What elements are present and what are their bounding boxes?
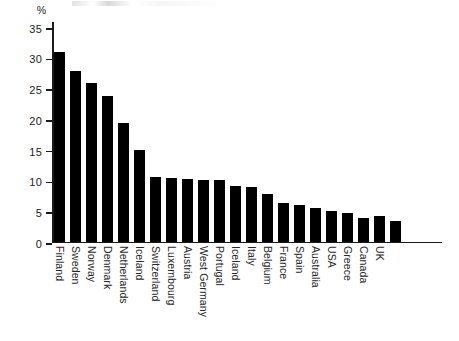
bar (198, 180, 209, 241)
bar-slot (214, 27, 225, 242)
x-axis-label: Switzerland (150, 246, 162, 301)
x-axis-label-slot: USA (326, 246, 337, 336)
x-axis-label: West Germany (198, 246, 210, 317)
bar-slot (118, 27, 129, 242)
bar-slot (182, 27, 193, 242)
plot-area: % 05101520253035 (52, 28, 442, 243)
x-axis-label: Canada (358, 246, 370, 283)
bar-slot (102, 27, 113, 242)
x-axis-label: France (278, 246, 290, 279)
bar (102, 96, 113, 242)
x-axis-label-slot: Greece (342, 246, 353, 336)
x-axis-label-slot: Iceland (134, 246, 145, 336)
bar (150, 177, 161, 242)
bar (70, 71, 81, 241)
y-axis-tick-label: 20 (29, 115, 42, 127)
bar (86, 83, 97, 241)
y-axis-tick: 10 (46, 182, 52, 184)
x-axis-label: Finland (54, 246, 66, 281)
bar-slot (294, 27, 305, 242)
bar (310, 208, 321, 241)
y-axis-tick-label: 10 (29, 176, 42, 188)
y-axis-tick: 35 (46, 28, 52, 30)
bar-slot (86, 27, 97, 242)
scan-artifact (72, 1, 222, 6)
x-axis-label-slot: Italy (246, 246, 257, 336)
bar-series (54, 27, 401, 242)
y-axis-tick: 5 (46, 212, 52, 214)
x-axis-label-slot: West Germany (198, 246, 209, 336)
bar-slot (278, 27, 289, 242)
x-axis-label-slot: Finland (54, 246, 65, 336)
x-axis-label: Portugal (214, 246, 226, 286)
bar-slot (54, 27, 65, 242)
bar-slot (342, 27, 353, 242)
bar-slot (198, 27, 209, 242)
bar-slot (358, 27, 369, 242)
x-axis-label: Netherlands (118, 246, 130, 304)
x-axis-label: Austria (182, 246, 194, 279)
bar (230, 186, 241, 242)
bar (342, 213, 353, 241)
bar (326, 211, 337, 241)
y-axis-tick: 0 (46, 243, 52, 245)
x-axis-label: Belgium (262, 246, 274, 285)
x-axis-label-slot: Denmark (102, 246, 113, 336)
bar (118, 123, 129, 242)
bar (262, 194, 273, 242)
y-axis-tick-label: 35 (29, 23, 42, 35)
bar-slot (134, 27, 145, 242)
y-axis-tick: 15 (46, 151, 52, 153)
x-axis-label-slot: Iceland (230, 246, 241, 336)
y-axis-tick: 20 (46, 120, 52, 122)
x-axis-label-slot: Austria (182, 246, 193, 336)
x-axis-label-slot: Belgium (262, 246, 273, 336)
bar-slot (150, 27, 161, 242)
x-axis-label-slot: Spain (294, 246, 305, 336)
y-axis-tick: 25 (46, 89, 52, 91)
y-axis-tick-label: 5 (36, 207, 42, 219)
x-axis-label: Sweden (70, 246, 82, 285)
bar (374, 216, 385, 242)
x-axis-label-slot: Norway (86, 246, 97, 336)
y-axis-tick-label: 30 (29, 53, 42, 65)
x-axis-label-slot: UK (374, 246, 385, 336)
bar (390, 221, 401, 242)
bar-slot (230, 27, 241, 242)
y-axis-unit-label: % (37, 4, 46, 16)
x-axis-label: Luxembourg (166, 246, 178, 305)
x-axis-label-slot: Luxembourg (166, 246, 177, 336)
x-axis-label: Denmark (102, 246, 114, 289)
x-axis-label: UK (374, 246, 386, 261)
bar-chart: % 05101520253035 FinlandSwedenNorwayDenm… (0, 0, 459, 341)
x-axis-labels: FinlandSwedenNorwayDenmarkNetherlandsIce… (54, 246, 385, 336)
x-axis-label: Greece (342, 246, 354, 281)
bar (278, 203, 289, 241)
x-axis-label: Italy (246, 246, 258, 266)
x-axis-label-slot: Sweden (70, 246, 81, 336)
bar-slot (166, 27, 177, 242)
x-axis-label-slot: France (278, 246, 289, 336)
bar-slot (262, 27, 273, 242)
bar-slot (70, 27, 81, 242)
x-axis-label-slot: Australia (310, 246, 321, 336)
x-axis-label-slot: Switzerland (150, 246, 161, 336)
bar (182, 179, 193, 242)
x-axis-label: Australia (310, 246, 322, 288)
x-axis-label: USA (326, 246, 338, 268)
bar (294, 205, 305, 241)
bar-slot (310, 27, 321, 242)
bar (134, 150, 145, 242)
bar (166, 178, 177, 241)
bar (54, 52, 65, 241)
bar (246, 187, 257, 241)
bar-slot (374, 27, 385, 242)
y-axis-tick-label: 0 (36, 238, 42, 250)
x-axis-label-slot: Netherlands (118, 246, 129, 336)
y-axis-tick-label: 15 (29, 146, 42, 158)
x-axis-label: Iceland (230, 246, 242, 281)
x-axis-label-slot: Canada (358, 246, 369, 336)
bar-slot (246, 27, 257, 242)
y-axis-tick: 30 (46, 59, 52, 61)
x-axis-label-slot: Portugal (214, 246, 225, 336)
